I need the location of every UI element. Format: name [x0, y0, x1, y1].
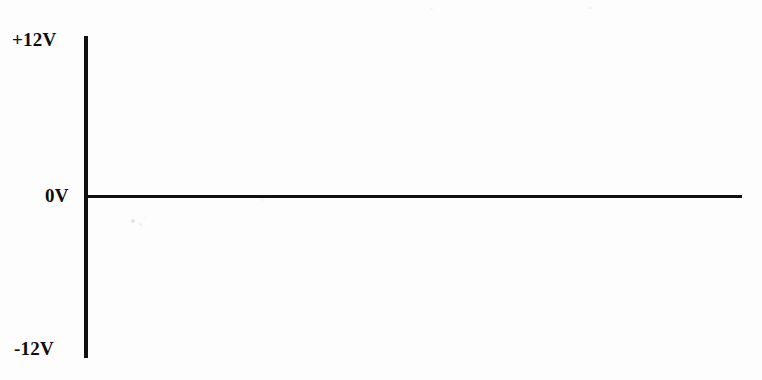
- paper-background: [0, 0, 762, 380]
- zero-volt-trace-line: [84, 195, 742, 198]
- voltage-axis-figure: +12V 0V -12V: [0, 0, 762, 380]
- axis-label-plus-12v: +12V: [12, 29, 56, 51]
- axis-label-minus-12v: -12V: [14, 338, 54, 360]
- axis-label-0v: 0V: [45, 185, 69, 207]
